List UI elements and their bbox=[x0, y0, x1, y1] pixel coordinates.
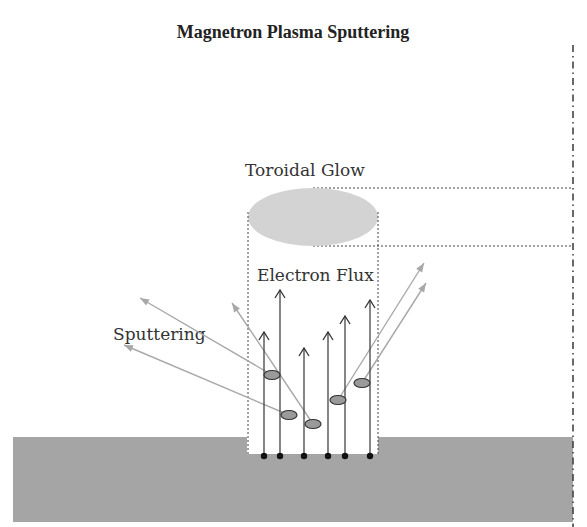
diagram-title: Magnetron Plasma Sputtering bbox=[177, 22, 410, 42]
emission-point bbox=[261, 453, 267, 459]
sputtered-particle bbox=[354, 379, 370, 388]
sputtered-particle bbox=[305, 420, 321, 429]
glow-label: Toroidal Glow bbox=[245, 160, 365, 180]
emission-point bbox=[301, 453, 307, 459]
sputtered-particle bbox=[264, 371, 280, 380]
emission-point bbox=[367, 453, 373, 459]
toroidal-glow bbox=[248, 188, 378, 246]
emission-point bbox=[342, 453, 348, 459]
electron-flux-label: Electron Flux bbox=[257, 265, 374, 285]
arrowhead-icon bbox=[140, 298, 150, 306]
sputtered-particle bbox=[330, 396, 346, 405]
sputtering-label: Sputtering bbox=[113, 324, 206, 344]
sputter-arrow bbox=[232, 303, 313, 424]
sputter-arrow bbox=[362, 283, 426, 383]
arrowhead-icon bbox=[124, 345, 134, 352]
arrowhead-icon bbox=[416, 263, 424, 272]
sputtered-particle bbox=[281, 411, 297, 420]
arrowhead-icon bbox=[418, 283, 426, 292]
emission-point bbox=[277, 453, 283, 459]
emission-point bbox=[325, 453, 331, 459]
arrowhead-icon bbox=[232, 303, 240, 312]
sputtering-diagram: Magnetron Plasma Sputtering Toroidal Glo… bbox=[0, 0, 587, 527]
target-notch bbox=[247, 430, 378, 454]
